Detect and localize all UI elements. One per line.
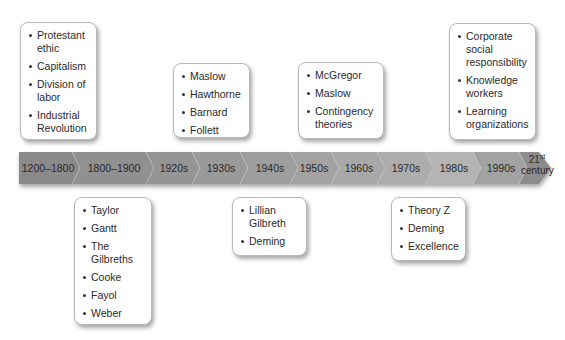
- callout-1940s-1950s: Lillian Gilbreth Deming: [232, 197, 307, 256]
- segment-label-1200-1800: 1200–1800: [20, 162, 76, 174]
- callout-1200-1800: Protestant ethic Capitalism Division of …: [20, 22, 97, 140]
- list-item: Gantt: [82, 222, 147, 235]
- century-number: 21: [529, 154, 540, 165]
- segment-label-1980s: 1980s: [432, 162, 476, 174]
- callout-1980s: Theory Z Deming Excellence: [391, 197, 466, 261]
- list-item: Corporate social responsibility: [457, 30, 531, 69]
- list-item: Division of labor: [28, 78, 92, 104]
- segment-label-1990s: 1990s: [479, 162, 523, 174]
- list-item: Deming: [240, 235, 302, 248]
- callout-1950s-1960s: McGregor Maslow Contingency theories: [298, 62, 384, 139]
- callout-21st-century: Corporate social responsibility Knowledg…: [449, 23, 536, 140]
- list-item: The Gilbreths: [82, 240, 143, 266]
- segment-label-1960s: 1960s: [337, 162, 381, 174]
- century-suffix: st: [540, 153, 545, 160]
- list-item: Protestant ethic: [28, 29, 92, 55]
- segment-label-1930s: 1930s: [199, 162, 243, 174]
- segment-label-1920s: 1920s: [153, 162, 195, 174]
- list-item: Barnard: [181, 106, 245, 119]
- list-item: Deming: [399, 222, 461, 235]
- list-item: Contingency theories: [306, 105, 379, 131]
- list-item: Maslow: [181, 70, 245, 83]
- list-item: Capitalism: [28, 60, 92, 73]
- callout-1800-1900: Taylor Gantt The Gilbreths Cooke Fayol W…: [74, 197, 152, 325]
- list-item: Excellence: [399, 240, 461, 253]
- segment-label-1970s: 1970s: [384, 162, 428, 174]
- list-item: Fayol: [82, 289, 147, 302]
- segment-label-1800-1900: 1800–1900: [82, 162, 146, 174]
- list-item: Theory Z: [399, 204, 461, 217]
- list-item: McGregor: [306, 69, 379, 82]
- callout-1920s-1930s: Maslow Hawthorne Barnard Follett: [173, 63, 250, 138]
- list-item: Weber: [82, 307, 147, 320]
- list-item: Industrial Revolution: [28, 109, 92, 135]
- segment-label-1940s: 1940s: [247, 162, 293, 174]
- list-item: Hawthorne: [181, 88, 245, 101]
- list-item: Maslow: [306, 87, 379, 100]
- list-item: Knowledge workers: [457, 74, 531, 100]
- list-item: Lillian Gilbreth: [240, 204, 299, 230]
- list-item: Follett: [181, 124, 245, 137]
- segment-label-21st-century: 21st century: [521, 154, 553, 176]
- list-item: Taylor: [82, 204, 147, 217]
- century-word: century: [521, 165, 554, 176]
- list-item: Learning organizations: [457, 105, 531, 131]
- segment-label-1950s: 1950s: [294, 162, 334, 174]
- list-item: Cooke: [82, 271, 147, 284]
